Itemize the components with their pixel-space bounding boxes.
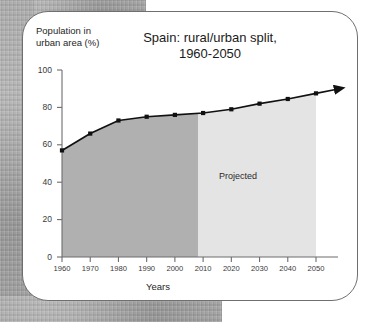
chart-title: Spain: rural/urban split, 1960-2050 bbox=[105, 30, 315, 62]
x-axis-tick-marks bbox=[62, 257, 316, 262]
y-axis-title-line2: urban area (%) bbox=[36, 37, 99, 48]
figure-stage: Population in urban area (%) Spain: rura… bbox=[0, 0, 380, 322]
x-axis-tick-label: 1960 bbox=[49, 264, 75, 273]
data-point-marker bbox=[201, 111, 205, 115]
projected-region-label: Projected bbox=[219, 171, 257, 181]
y-axis-title: Population in urban area (%) bbox=[36, 25, 99, 48]
data-point-marker bbox=[88, 131, 92, 135]
data-point-marker bbox=[173, 113, 177, 117]
data-point-marker bbox=[229, 107, 233, 111]
x-axis-tick-label: 2050 bbox=[303, 264, 329, 273]
x-axis-tick-label: 1970 bbox=[77, 264, 103, 273]
y-axis-title-line1: Population in bbox=[36, 25, 91, 36]
data-point-marker bbox=[314, 91, 318, 95]
chart-title-line1: Spain: rural/urban split, bbox=[143, 30, 277, 45]
x-axis-title: Years bbox=[146, 281, 170, 292]
x-axis-tick-label: 1980 bbox=[105, 264, 131, 273]
x-axis-tick-label: 2030 bbox=[247, 264, 273, 273]
data-point-marker bbox=[257, 102, 261, 106]
data-point-marker bbox=[145, 115, 149, 119]
y-axis-tick-label: 100 bbox=[28, 65, 52, 75]
x-axis-tick-label: 2040 bbox=[275, 264, 301, 273]
x-axis-tick-label: 1990 bbox=[134, 264, 160, 273]
data-point-marker bbox=[286, 97, 290, 101]
data-point-marker bbox=[60, 148, 64, 152]
y-axis-tick-label: 60 bbox=[28, 139, 52, 149]
y-axis-tick-label: 0 bbox=[28, 252, 52, 262]
chart-title-line2: 1960-2050 bbox=[179, 46, 241, 61]
y-axis-tick-label: 20 bbox=[28, 214, 52, 224]
y-axis-tick-label: 80 bbox=[28, 102, 52, 112]
x-axis-tick-label: 2010 bbox=[190, 264, 216, 273]
data-point-marker bbox=[116, 118, 120, 122]
x-axis-tick-label: 2020 bbox=[218, 264, 244, 273]
y-axis-tick-label: 40 bbox=[28, 177, 52, 187]
trend-arrow bbox=[316, 89, 336, 93]
x-axis-tick-label: 2000 bbox=[162, 264, 188, 273]
y-axis-tick-marks bbox=[57, 70, 62, 257]
